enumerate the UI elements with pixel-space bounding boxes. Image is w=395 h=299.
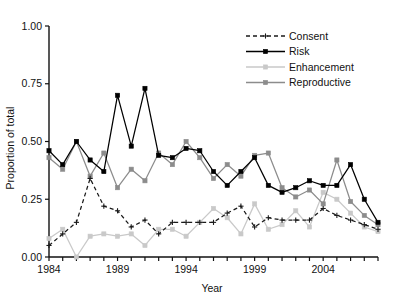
data-point-risk	[61, 163, 65, 167]
data-point-reproductive	[348, 199, 352, 203]
data-point-enhancement	[143, 243, 147, 247]
data-point-enhancement	[88, 234, 92, 238]
series-reproductive	[47, 139, 380, 226]
data-point-enhancement	[115, 234, 119, 238]
legend-item-consent[interactable]: Consent	[246, 30, 328, 42]
data-point-risk	[266, 183, 270, 187]
data-point-reproductive	[198, 156, 202, 160]
data-point-reproductive	[102, 151, 106, 155]
x-axis-tick-label: 1994	[174, 263, 198, 275]
legend-label-enhancement: Enhancement	[289, 61, 354, 73]
data-point-risk	[376, 220, 380, 224]
data-point-reproductive	[184, 139, 188, 143]
y-axis-tick-label: 1.00	[22, 20, 43, 32]
data-point-reproductive	[266, 151, 270, 155]
legend-marker-enhancement	[263, 65, 267, 69]
data-point-risk	[129, 144, 133, 148]
data-point-risk	[280, 190, 284, 194]
data-point-risk	[157, 153, 161, 157]
data-point-reproductive	[115, 186, 119, 190]
data-point-enhancement	[348, 211, 352, 215]
data-point-risk	[184, 146, 188, 150]
data-point-risk	[170, 156, 174, 160]
chart-container: 0.000.250.500.751.0019841989199419992004…	[0, 0, 395, 299]
data-point-reproductive	[294, 195, 298, 199]
data-point-risk	[321, 183, 325, 187]
data-point-enhancement	[102, 232, 106, 236]
data-point-risk	[47, 149, 51, 153]
data-point-enhancement	[47, 236, 51, 240]
y-axis-tick-label: 0.25	[22, 193, 43, 205]
data-point-enhancement	[211, 206, 215, 210]
data-point-enhancement	[307, 225, 311, 229]
data-point-risk	[198, 149, 202, 153]
data-point-enhancement	[157, 227, 161, 231]
data-point-enhancement	[266, 227, 270, 231]
x-axis-tick-label: 1984	[37, 263, 61, 275]
data-point-risk	[253, 156, 257, 160]
series-layer	[46, 86, 380, 259]
chart-plot: 0.000.250.500.751.0019841989199419992004…	[0, 0, 395, 299]
data-point-risk	[307, 179, 311, 183]
data-point-risk	[239, 169, 243, 173]
data-point-enhancement	[239, 232, 243, 236]
data-point-enhancement	[335, 197, 339, 201]
data-point-risk	[115, 93, 119, 97]
data-point-reproductive	[143, 179, 147, 183]
data-point-risk	[294, 186, 298, 190]
data-point-reproductive	[211, 176, 215, 180]
data-point-reproductive	[47, 156, 51, 160]
legend-item-reproductive[interactable]: Reproductive	[246, 76, 351, 88]
data-point-risk	[74, 139, 78, 143]
data-point-risk	[143, 86, 147, 90]
data-point-enhancement	[61, 227, 65, 231]
data-point-reproductive	[335, 158, 339, 162]
data-point-risk	[88, 158, 92, 162]
series-risk	[47, 86, 380, 224]
data-point-reproductive	[170, 163, 174, 167]
legend-label-risk: Risk	[289, 45, 310, 57]
data-point-enhancement	[184, 234, 188, 238]
data-point-enhancement	[129, 232, 133, 236]
data-point-reproductive	[225, 163, 229, 167]
legend-label-reproductive: Reproductive	[289, 76, 351, 88]
series-consent	[46, 176, 380, 248]
data-point-reproductive	[307, 188, 311, 192]
data-point-reproductive	[239, 174, 243, 178]
data-point-risk	[348, 163, 352, 167]
series-line-risk	[49, 88, 378, 222]
data-point-enhancement	[225, 216, 229, 220]
data-point-reproductive	[129, 167, 133, 171]
data-point-risk	[102, 169, 106, 173]
data-point-reproductive	[362, 213, 366, 217]
data-point-enhancement	[74, 255, 78, 259]
legend-item-enhancement[interactable]: Enhancement	[246, 61, 354, 73]
legend-label-consent: Consent	[289, 30, 328, 42]
data-point-risk	[225, 183, 229, 187]
series-line-reproductive	[49, 142, 378, 225]
legend-layer: ConsentRiskEnhancementReproductive	[246, 30, 354, 89]
data-point-reproductive	[61, 167, 65, 171]
legend-item-risk[interactable]: Risk	[246, 45, 310, 57]
data-point-enhancement	[170, 227, 174, 231]
x-axis-title: Year	[201, 282, 223, 294]
data-point-reproductive	[321, 202, 325, 206]
y-axis-tick-label: 0.50	[22, 135, 43, 147]
data-point-enhancement	[280, 223, 284, 227]
axis-layer: 0.000.250.500.751.0019841989199419992004	[22, 20, 378, 275]
data-point-enhancement	[294, 209, 298, 213]
x-axis-tick-label: 2004	[311, 263, 335, 275]
y-axis-tick-label: 0.75	[22, 77, 43, 89]
data-point-enhancement	[253, 202, 257, 206]
x-axis-tick-label: 1999	[243, 263, 267, 275]
data-point-enhancement	[321, 190, 325, 194]
y-axis-title: Proportion of total	[4, 107, 16, 190]
y-axis-tick-label: 0.00	[22, 251, 43, 263]
data-point-risk	[211, 169, 215, 173]
data-point-reproductive	[280, 186, 284, 190]
legend-marker-risk	[263, 49, 267, 53]
data-point-risk	[362, 197, 366, 201]
data-point-risk	[335, 183, 339, 187]
legend-marker-reproductive	[263, 80, 267, 84]
x-axis-tick-label: 1989	[106, 263, 130, 275]
